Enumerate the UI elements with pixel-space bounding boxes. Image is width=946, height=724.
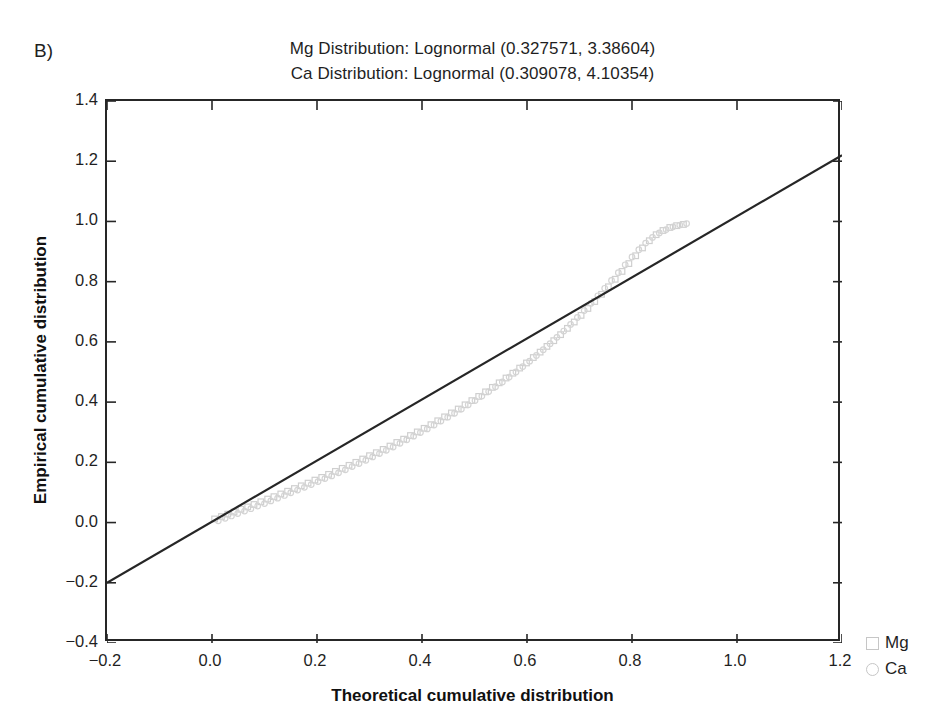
legend-label: Mg bbox=[885, 633, 909, 653]
panel-label: B) bbox=[34, 40, 53, 62]
x-axis-tick-labels: −0.20.00.20.40.60.81.01.2 bbox=[105, 651, 840, 677]
plot-area bbox=[105, 99, 840, 641]
chart-title-line-mg: Mg Distribution: Lognormal (0.327571, 3.… bbox=[105, 36, 840, 61]
identity-reference-line bbox=[107, 155, 842, 583]
tick-marks bbox=[107, 101, 842, 643]
x-tick-label: 0.2 bbox=[280, 651, 350, 670]
x-tick-label: 1.2 bbox=[805, 651, 875, 670]
x-tick-label: 0.0 bbox=[175, 651, 245, 670]
chart-title: Mg Distribution: Lognormal (0.327571, 3.… bbox=[105, 36, 840, 86]
legend: MgCa bbox=[866, 630, 936, 682]
plot-canvas bbox=[107, 101, 842, 643]
x-tick-label: 0.6 bbox=[490, 651, 560, 670]
y-axis-title: Empirical cumulative distribution bbox=[24, 99, 58, 641]
legend-item-ca[interactable]: Ca bbox=[866, 656, 936, 682]
legend-item-mg[interactable]: Mg bbox=[866, 630, 936, 656]
figure-panel: B) Mg Distribution: Lognormal (0.327571,… bbox=[0, 0, 946, 724]
x-tick-label: −0.2 bbox=[70, 651, 140, 670]
chart-title-line-ca: Ca Distribution: Lognormal (0.309078, 4.… bbox=[105, 61, 840, 86]
x-axis-title: Theoretical cumulative distribution bbox=[105, 686, 840, 706]
x-tick-label: 1.0 bbox=[700, 651, 770, 670]
circle-marker-icon bbox=[866, 663, 879, 676]
legend-label: Ca bbox=[885, 659, 907, 679]
x-tick-label: 0.8 bbox=[595, 651, 665, 670]
square-marker-icon bbox=[866, 637, 879, 650]
x-tick-label: 0.4 bbox=[385, 651, 455, 670]
scatter-series-mg bbox=[212, 222, 686, 522]
